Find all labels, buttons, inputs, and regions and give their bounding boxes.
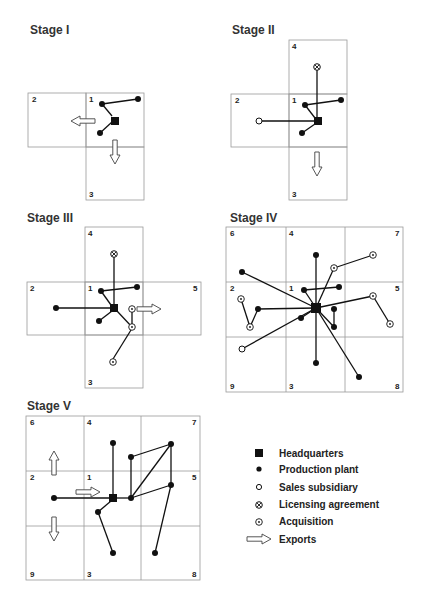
- headquarters-icon: [111, 117, 119, 125]
- sales-subsidiary-icon: [256, 118, 262, 124]
- export-arrow-icon: [71, 116, 95, 126]
- links: [56, 257, 137, 359]
- links: [241, 255, 390, 377]
- production-plant-icon: [96, 318, 102, 324]
- legend: Headquarters Production plant Sales subs…: [247, 448, 380, 545]
- cell-number: 2: [235, 96, 240, 105]
- headquarters-icon: [109, 494, 117, 502]
- production-plant-icon: [313, 360, 319, 366]
- legend-label: Headquarters: [279, 448, 344, 459]
- cell-number: 8: [192, 570, 197, 579]
- cell-number: 2: [32, 95, 37, 104]
- production-plant-icon: [168, 441, 174, 447]
- acquisition-icon: [331, 265, 338, 272]
- acquisition-icon: [238, 296, 245, 303]
- export-arrow-icon: [110, 140, 120, 164]
- production-plant-icon: [331, 324, 337, 330]
- cell-number: 1: [89, 95, 94, 104]
- production-plant-icon: [255, 306, 261, 312]
- production-plant-icon: [134, 284, 140, 290]
- licensing-agreement-icon: [111, 251, 118, 258]
- cell-number: 1: [87, 473, 92, 482]
- stage-title: Stage III: [27, 211, 73, 225]
- production-plant-icon: [336, 284, 342, 290]
- production-plant-icon: [298, 315, 304, 321]
- production-plant-icon: [299, 130, 305, 136]
- production-plant-icon: [128, 495, 134, 501]
- cell-number: 8: [395, 382, 400, 391]
- cell-number: 4: [292, 42, 297, 51]
- stage-3: Stage III 4 2 1 5 3: [27, 211, 201, 388]
- headquarters-icon: [314, 117, 322, 125]
- acquisition-icon: [387, 321, 394, 328]
- cell-number: 2: [30, 284, 35, 293]
- stage-2: Stage II 4 2 1 3: [231, 23, 347, 200]
- cell-number: 6: [230, 229, 235, 238]
- cell-number: 4: [289, 229, 294, 238]
- production-plant-icon: [301, 287, 307, 293]
- production-plant-icon: [110, 550, 116, 556]
- production-plant-icon: [95, 509, 101, 515]
- headquarters-icon: [311, 303, 321, 313]
- cell-number: 5: [395, 284, 400, 293]
- production-plant-icon: [128, 454, 134, 460]
- production-plant-icon: [53, 305, 59, 311]
- legend-label: Sales subsidiary: [279, 482, 358, 493]
- cell-number: 1: [289, 284, 294, 293]
- production-plant-icon: [98, 288, 104, 294]
- export-arrow-icon: [76, 487, 100, 497]
- acquisition-icon: [129, 306, 136, 313]
- production-plant-icon: [99, 101, 105, 107]
- production-plant-icon: [97, 130, 103, 136]
- cell-number: 1: [88, 284, 93, 293]
- legend-label: Production plant: [279, 464, 359, 475]
- cell-number: 3: [88, 378, 93, 387]
- export-arrow-icon: [312, 152, 322, 176]
- stage-title: Stage IV: [230, 211, 277, 225]
- production-plant-icon: [256, 466, 261, 471]
- export-arrow-icon: [137, 304, 161, 314]
- stages-diagram: Stage I 2 1 3 Stage II 4 2 1: [0, 0, 425, 603]
- acquisition-icon: [247, 324, 254, 331]
- links: [262, 70, 341, 133]
- headquarters-icon: [255, 449, 263, 457]
- production-plant-icon: [338, 97, 344, 103]
- acquisition-icon: [129, 324, 136, 331]
- cell-number: 3: [292, 190, 297, 199]
- cell-number: 2: [230, 284, 235, 293]
- cell-number: 5: [193, 284, 198, 293]
- production-plant-icon: [110, 440, 116, 446]
- acquisition-icon: [370, 252, 377, 259]
- production-plant-icon: [313, 252, 319, 258]
- stage-title: Stage II: [232, 23, 275, 37]
- headquarters-icon: [110, 304, 118, 312]
- production-plant-icon: [168, 482, 174, 488]
- cell-number: 2: [30, 473, 35, 482]
- cell-number: 4: [87, 418, 92, 427]
- cell-number: 4: [88, 229, 93, 238]
- stage-5: Stage V 6 4 7 2 1 5 9 3 8: [26, 399, 200, 580]
- acquisition-icon: [256, 519, 263, 526]
- legend-label: Licensing agreement: [279, 499, 380, 510]
- cell-number: 3: [289, 382, 294, 391]
- cell-number: 7: [395, 229, 400, 238]
- sales-subsidiary-icon: [239, 346, 245, 352]
- legend-label: Acquisition: [279, 516, 333, 527]
- acquisition-icon: [370, 293, 377, 300]
- links: [100, 99, 138, 133]
- cell-number: 3: [87, 570, 92, 579]
- export-arrow-icon: [49, 517, 59, 541]
- production-plant-icon: [331, 306, 337, 312]
- production-plant-icon: [239, 269, 245, 275]
- licensing-agreement-icon: [314, 64, 321, 71]
- region-grid: [28, 93, 144, 200]
- stage-title: Stage V: [27, 399, 71, 413]
- export-arrow-icon: [247, 534, 271, 544]
- legend-label: Exports: [279, 534, 317, 545]
- production-plant-icon: [51, 495, 57, 501]
- cell-number: 9: [30, 570, 35, 579]
- cell-number: 7: [192, 418, 197, 427]
- acquisition-icon: [110, 359, 117, 366]
- production-plant-icon: [152, 550, 158, 556]
- region-grid: [231, 40, 347, 200]
